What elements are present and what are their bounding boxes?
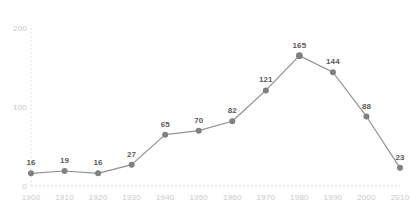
- data-point-label: 23: [395, 153, 404, 162]
- series-line: [31, 56, 400, 174]
- x-axis-tick-label: 1910: [55, 193, 74, 202]
- x-axis-tick-label: 1920: [89, 193, 108, 202]
- data-point-label: 165: [293, 41, 307, 50]
- chart-plot-area: [0, 0, 412, 218]
- data-point-marker[interactable]: [62, 168, 68, 174]
- data-point-label: 16: [26, 158, 35, 167]
- x-axis-tick-label: 2010: [391, 193, 410, 202]
- data-point-label: 82: [228, 106, 237, 115]
- data-point-label: 65: [161, 120, 170, 129]
- y-axis-tick-label: 100: [4, 103, 27, 112]
- data-point-marker[interactable]: [28, 170, 34, 176]
- data-point-label: 144: [326, 57, 340, 66]
- data-point-label: 70: [194, 116, 203, 125]
- x-axis-tick-label: 1950: [189, 193, 208, 202]
- x-axis-tick-label: 1960: [223, 193, 242, 202]
- line-chart: 0100200 19001910192019301940195019601970…: [0, 0, 412, 218]
- x-axis-tick-label: 1900: [22, 193, 41, 202]
- data-point-label: 88: [362, 102, 371, 111]
- data-point-marker[interactable]: [229, 118, 235, 124]
- data-point-marker[interactable]: [129, 162, 135, 168]
- data-point-marker[interactable]: [162, 132, 168, 138]
- x-axis-tick-label: 1990: [324, 193, 343, 202]
- data-point-label: 121: [259, 75, 273, 84]
- data-point-marker[interactable]: [263, 87, 269, 93]
- data-point-marker[interactable]: [196, 128, 202, 134]
- data-point-marker[interactable]: [330, 69, 336, 75]
- x-axis-tick-label: 1980: [290, 193, 309, 202]
- series-markers: [28, 52, 403, 176]
- data-point-marker[interactable]: [363, 113, 369, 119]
- y-axis-tick-label: 200: [4, 24, 27, 33]
- x-axis-tick-label: 1930: [122, 193, 141, 202]
- data-point-label: 16: [94, 158, 103, 167]
- data-point-label: 27: [127, 150, 136, 159]
- data-point-marker[interactable]: [95, 170, 101, 176]
- data-point-marker[interactable]: [296, 52, 303, 59]
- y-axis-tick-label: 0: [4, 182, 27, 191]
- x-axis-tick-label: 1940: [156, 193, 175, 202]
- x-axis-tick-label: 2000: [357, 193, 376, 202]
- x-axis-tick-label: 1970: [256, 193, 275, 202]
- gridlines: [31, 28, 400, 186]
- data-point-label: 19: [60, 156, 69, 165]
- data-point-marker[interactable]: [397, 165, 403, 171]
